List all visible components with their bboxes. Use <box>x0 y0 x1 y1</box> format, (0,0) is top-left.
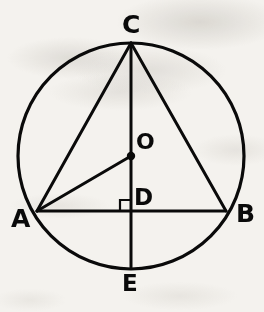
geometry-figure: C O D A B E <box>0 0 264 312</box>
geometry-canvas <box>0 0 264 312</box>
vertex-label-O: O <box>136 131 155 153</box>
vertex-label-D: D <box>134 186 153 209</box>
vertex-label-B: B <box>236 201 255 226</box>
right-angle-marker-icon <box>120 200 131 211</box>
vertex-label-A: A <box>11 206 30 231</box>
vertex-label-C: C <box>122 12 140 37</box>
vertex-label-E: E <box>122 272 138 295</box>
segment-CA <box>37 43 131 211</box>
center-dot-O <box>127 152 135 160</box>
